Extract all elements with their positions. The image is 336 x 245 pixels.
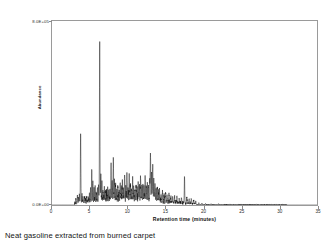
x-axis-tick-label: 30: [277, 209, 282, 215]
y-axis-tick-label-max: 8.0E+05: [32, 19, 49, 24]
y-axis-title: Abundance: [37, 76, 42, 120]
chromatogram-trace: [52, 21, 317, 205]
x-axis-title: Retention time (minutes): [51, 216, 318, 223]
x-axis-tick-label: 5: [88, 209, 91, 215]
x-axis-tick-label: 20: [201, 209, 206, 215]
plot-area: 8.0E+05 0.0E+00: [51, 20, 318, 206]
x-axis-tick-label: 25: [239, 209, 244, 215]
chromatogram-figure: 8.0E+05 0.0E+00 Abundance 05101520253035…: [0, 0, 336, 245]
chromatogram-signal-path: [52, 42, 317, 205]
y-axis-tick-label-min: 0.0E+00: [32, 202, 49, 207]
x-axis-tick-label: 35: [315, 209, 320, 215]
figure-caption: Neat gasoline extracted from burned carp…: [5, 231, 155, 241]
x-axis-tick-label: 0: [50, 209, 53, 215]
x-axis-tick-label: 10: [125, 209, 130, 215]
x-axis-tick-label: 15: [163, 209, 168, 215]
